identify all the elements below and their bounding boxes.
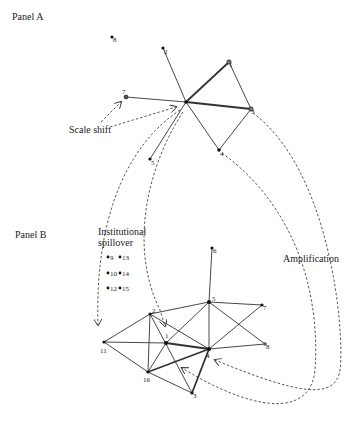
arrow-scale-shift-to-hub	[110, 107, 176, 127]
svg-text:12: 12	[110, 285, 118, 293]
amplification-label: Amplification	[283, 253, 339, 264]
svg-text:2: 2	[164, 48, 168, 56]
svg-text:13: 13	[122, 254, 130, 262]
arrow-amplification-a3-to-b4	[215, 113, 341, 390]
svg-text:1: 1	[229, 61, 233, 69]
node-b-14: 14	[119, 270, 130, 278]
node-b-15: 15	[119, 285, 130, 293]
svg-text:11: 11	[100, 347, 107, 355]
panel-b-label: Panel B	[15, 229, 46, 240]
svg-text:8: 8	[266, 343, 270, 351]
node-b-16: 16	[143, 370, 151, 384]
arrow-hub-to-b2	[144, 112, 183, 326]
svg-text:4: 4	[220, 150, 224, 158]
node-a-7: 7	[122, 88, 128, 99]
network-diagram: 8 2 7 1 3 4 5 6 5 7 2 1 11 4	[0, 0, 360, 430]
node-b-2: 2	[148, 307, 156, 316]
svg-text:4: 4	[206, 352, 210, 360]
svg-text:14: 14	[122, 270, 130, 278]
svg-text:9: 9	[110, 254, 114, 262]
panel-a-nodes: 8 2 7 1 3 4 5	[110, 35, 255, 167]
node-a-hub	[184, 100, 188, 104]
node-b-12: 12	[107, 285, 118, 293]
svg-text:5: 5	[212, 295, 216, 303]
institutional-spillover-label: Institutional spillover	[98, 226, 146, 248]
node-b-8: 8	[263, 342, 270, 351]
institutional-spillover-line1: Institutional	[98, 226, 146, 237]
svg-text:7: 7	[263, 304, 267, 312]
svg-text:5: 5	[151, 159, 155, 167]
svg-text:2: 2	[152, 307, 156, 315]
node-b-5: 5	[207, 295, 216, 304]
node-b-11: 11	[100, 340, 107, 355]
svg-text:1: 1	[165, 332, 169, 340]
node-b-13: 13	[119, 254, 130, 262]
node-a-4: 4	[217, 148, 224, 158]
arrow-scale-shift-to-node7	[101, 102, 121, 122]
node-b-7: 7	[260, 303, 267, 312]
institutional-spillover-line2: spillover	[98, 237, 146, 248]
svg-text:6: 6	[213, 247, 217, 255]
panel-a-label: Panel A	[12, 11, 43, 22]
node-a-8: 8	[110, 35, 117, 44]
node-b-9: 9	[107, 254, 114, 262]
panel-b-isolated-nodes: 9 13 10 14 12 15	[107, 254, 130, 293]
svg-text:15: 15	[122, 285, 130, 293]
svg-text:16: 16	[143, 376, 151, 384]
node-a-5: 5	[148, 157, 155, 167]
node-a-3: 3	[249, 107, 255, 116]
scale-shift-label: Scale shift	[69, 124, 111, 135]
node-b-3: 3	[190, 391, 197, 400]
svg-text:3: 3	[193, 392, 197, 400]
node-a-2: 2	[161, 46, 168, 56]
svg-text:3: 3	[251, 108, 255, 116]
svg-text:10: 10	[110, 270, 118, 278]
svg-text:7: 7	[122, 88, 126, 96]
node-b-10: 10	[107, 270, 118, 278]
svg-text:8: 8	[113, 36, 117, 44]
